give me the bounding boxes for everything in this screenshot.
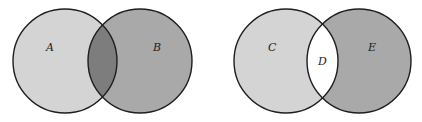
- venn-left: A B: [13, 9, 192, 113]
- venn-right: C D E: [234, 9, 411, 113]
- label-c: C: [268, 41, 277, 54]
- label-b: B: [152, 41, 161, 54]
- label-d: D: [317, 55, 327, 68]
- venn-diagrams: A B C D E: [0, 0, 422, 122]
- label-e: E: [367, 41, 376, 54]
- label-a: A: [45, 41, 54, 54]
